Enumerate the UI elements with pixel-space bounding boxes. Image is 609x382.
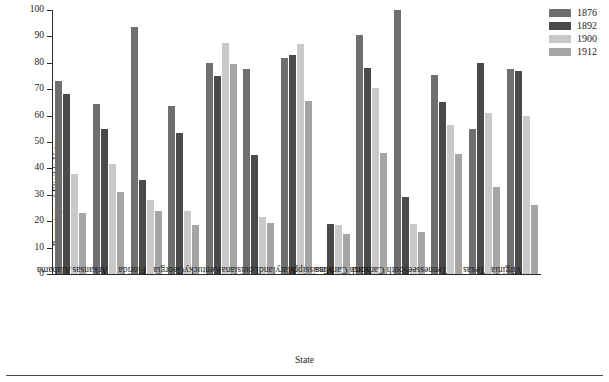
bar (485, 113, 492, 274)
x-label-slot: Kentucky (204, 278, 238, 352)
chart-legend: 1876189219001912 (549, 8, 597, 57)
x-label-slot: Texas (468, 278, 502, 352)
x-tick-label: Texas (462, 265, 484, 275)
x-tick-label: Georgia (153, 265, 183, 275)
y-tick-label: 90 (35, 32, 45, 42)
y-tick-label: 80 (35, 58, 45, 68)
bar (364, 68, 371, 274)
bar-group (130, 10, 162, 274)
bar (93, 104, 100, 274)
bar-group (318, 10, 350, 274)
x-tick-label: Kentucky (184, 265, 221, 275)
y-tick-label: 10 (35, 243, 45, 253)
bar-group (205, 10, 237, 274)
bar (63, 94, 70, 274)
plot-area: 0102030405060708090100 (52, 10, 541, 274)
bar-group (92, 10, 124, 274)
x-label-slot: South Carolina (392, 278, 426, 352)
bar (455, 154, 462, 274)
bar (168, 106, 175, 274)
y-tick-label: 40 (35, 164, 45, 174)
bar-group (243, 10, 275, 274)
bar (230, 64, 237, 274)
bar-group (55, 10, 87, 274)
bar (431, 75, 438, 274)
y-tick-label: 60 (35, 111, 45, 121)
bar (131, 27, 138, 274)
bar (507, 69, 514, 274)
bar (214, 76, 221, 274)
x-label-slot: Georgia (167, 278, 201, 352)
bar (281, 58, 288, 274)
x-tick-label: Virginia (491, 265, 522, 275)
bar (139, 180, 146, 274)
legend-swatch-icon (549, 48, 571, 56)
bar (477, 63, 484, 274)
x-label-slot: Arkansas (91, 278, 125, 352)
bar (447, 125, 454, 274)
y-tick-label: 30 (35, 190, 45, 200)
bar (289, 55, 296, 274)
bar (531, 205, 538, 274)
legend-item: 1900 (549, 34, 597, 44)
x-label-slot: Tennessee (430, 278, 464, 352)
bar (297, 44, 304, 274)
x-tick-label: Louisiana (221, 265, 258, 275)
bar (243, 69, 250, 274)
bar (206, 63, 213, 274)
bar-group (168, 10, 200, 274)
bar (117, 192, 124, 274)
bar (515, 71, 522, 274)
bar-group (280, 10, 312, 274)
x-tick-label: South Carolina (352, 265, 409, 275)
legend-label: 1912 (577, 47, 597, 57)
bar (394, 10, 401, 274)
x-label-slot: Louisiana (242, 278, 276, 352)
bar (439, 102, 446, 274)
bar-group (356, 10, 388, 274)
bar (147, 200, 154, 274)
x-label-slot: Mississippi (317, 278, 351, 352)
x-label-slot: Alabama (54, 278, 88, 352)
bar (372, 88, 379, 274)
y-tick-label: 70 (35, 84, 45, 94)
bar-group (393, 10, 425, 274)
bar (176, 133, 183, 274)
x-axis-labels: AlabamaArkansasFloridaGeorgiaKentuckyLou… (52, 278, 541, 352)
legend-swatch-icon (549, 22, 571, 30)
legend-item: 1876 (549, 8, 597, 18)
bar (493, 187, 500, 274)
bar (71, 174, 78, 274)
x-tick-label: Tennessee (408, 265, 447, 275)
x-label-slot: Florida (129, 278, 163, 352)
bar-group (431, 10, 463, 274)
bar-group (469, 10, 501, 274)
bar (305, 101, 312, 274)
x-label-slot: Virginia (505, 278, 539, 352)
x-tick-label: Arkansas (73, 265, 108, 275)
y-tick-label: 50 (35, 137, 45, 147)
bar (222, 43, 229, 274)
x-axis-title: State (0, 355, 609, 365)
y-tick-label: 20 (35, 216, 45, 226)
x-tick-label: Alabama (37, 265, 71, 275)
bar (109, 164, 116, 274)
legend-item: 1912 (549, 47, 597, 57)
legend-swatch-icon (549, 9, 571, 17)
bar-chart: Percentage of Eligible Voters 0102030405… (0, 0, 609, 382)
bar (251, 155, 258, 274)
legend-label: 1900 (577, 34, 597, 44)
bar (523, 116, 530, 274)
legend-label: 1876 (577, 8, 597, 18)
x-label-slot: Maryland (279, 278, 313, 352)
legend-swatch-icon (549, 35, 571, 43)
bar (101, 129, 108, 274)
x-tick-label: Florida (119, 265, 146, 275)
bar (380, 153, 387, 274)
bar (356, 35, 363, 274)
y-tick-label: 100 (30, 5, 44, 15)
bar (469, 129, 476, 274)
bar (402, 197, 409, 274)
legend-label: 1892 (577, 21, 597, 31)
footer-divider (6, 375, 603, 376)
